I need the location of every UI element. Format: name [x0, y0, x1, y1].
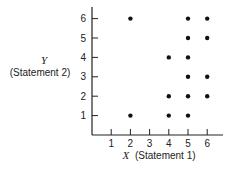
data-point [128, 16, 132, 20]
x-tick-label: 6 [204, 138, 210, 149]
x-tick-label: 5 [185, 138, 191, 149]
data-point [167, 113, 171, 117]
y-tick-label: 3 [80, 71, 86, 82]
y-tick-label: 1 [80, 110, 86, 121]
x-axis-description: (Statement 1) [135, 150, 196, 161]
data-point [205, 36, 209, 40]
y-axis-variable: Y [41, 54, 49, 66]
x-axis-variable: X [121, 149, 130, 161]
y-tick-label: 4 [80, 52, 86, 63]
data-point [128, 113, 132, 117]
y-ticks: 123456 [80, 13, 98, 121]
data-point [205, 75, 209, 79]
data-point [205, 94, 209, 98]
x-ticks: 123456 [108, 129, 210, 149]
y-tick-label: 5 [80, 33, 86, 44]
data-point [167, 55, 171, 59]
y-axis-description: (Statement 2) [10, 67, 71, 78]
axes [92, 7, 223, 135]
data-point [186, 36, 190, 40]
data-point [167, 94, 171, 98]
data-point [186, 75, 190, 79]
data-point [186, 16, 190, 20]
data-point [186, 113, 190, 117]
y-tick-label: 2 [80, 91, 86, 102]
scatter-chart: 123456 123456 Y (Statement 2) X (Stateme… [0, 0, 234, 169]
data-point [205, 16, 209, 20]
data-points [128, 16, 209, 117]
x-tick-label: 3 [147, 138, 153, 149]
x-tick-label: 1 [108, 138, 114, 149]
x-tick-label: 4 [166, 138, 172, 149]
x-axis-title: X (Statement 1) [121, 149, 195, 161]
data-point [186, 55, 190, 59]
y-tick-label: 6 [80, 13, 86, 24]
data-point [186, 94, 190, 98]
x-tick-label: 2 [128, 138, 134, 149]
